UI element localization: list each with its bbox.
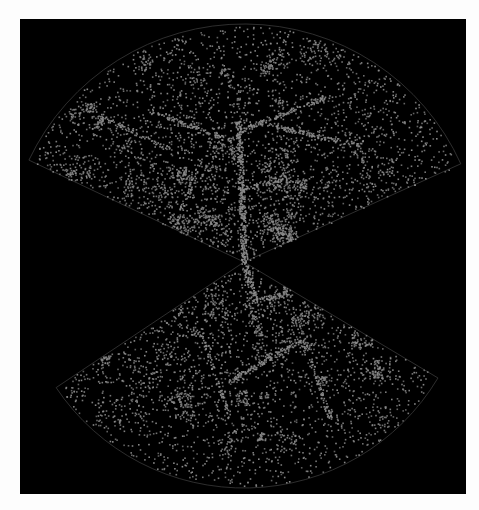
galaxy-points [37,27,452,487]
galaxy-survey-cone-diagram [0,0,479,510]
